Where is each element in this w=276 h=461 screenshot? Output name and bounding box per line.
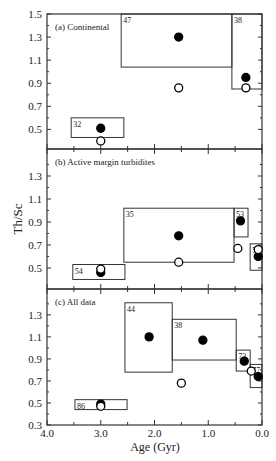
panel-b: 0.50.70.91.11.3(b) Active margin turbidi… xyxy=(28,149,262,294)
y-tick-label: 0.7 xyxy=(28,375,42,387)
filled-data-point xyxy=(254,373,262,381)
y-tick-label: 0.5 xyxy=(28,397,42,409)
y-tick-label: 1.1 xyxy=(28,193,42,205)
x-tick-label: 3.0 xyxy=(94,427,108,439)
filled-data-point xyxy=(240,357,248,365)
y-tick-label: 1.1 xyxy=(28,331,42,343)
chart-figure: 0.50.70.91.11.31.5(a) Continental3247380… xyxy=(0,0,276,461)
open-data-point xyxy=(177,379,185,387)
y-axis-label: Th/Sc xyxy=(10,203,25,234)
y-tick-label: 0.5 xyxy=(28,262,42,274)
filled-data-point xyxy=(242,73,250,81)
open-data-point xyxy=(175,84,183,92)
filled-data-point xyxy=(145,333,153,341)
box-label: 86 xyxy=(77,402,85,411)
x-tick-label: 4.0 xyxy=(40,427,54,439)
open-data-point xyxy=(175,258,183,266)
filled-data-point xyxy=(175,232,183,240)
x-axis-label: Age (Gyr) xyxy=(130,440,180,454)
y-tick-label: 0.9 xyxy=(28,216,42,228)
open-data-point xyxy=(97,265,105,273)
panel-c: 0.30.50.70.91.11.3(c) All data8644387377 xyxy=(28,289,262,431)
y-tick-label: 1.1 xyxy=(28,54,42,66)
x-tick-label: 1.0 xyxy=(201,427,215,439)
filled-data-point xyxy=(199,336,207,344)
panel-title: (c) All data xyxy=(55,297,95,307)
open-data-point xyxy=(97,402,105,410)
y-tick-label: 1.3 xyxy=(28,309,42,321)
y-tick-label: 1.5 xyxy=(28,8,42,20)
y-tick-label: 0.7 xyxy=(28,100,42,112)
y-tick-label: 1.3 xyxy=(28,170,42,182)
box-label: 44 xyxy=(127,305,135,314)
filled-data-point xyxy=(237,217,245,225)
open-data-point xyxy=(254,246,262,254)
open-data-point xyxy=(242,84,250,92)
y-tick-label: 1.3 xyxy=(28,31,42,43)
panel-title: (b) Active margin turbidites xyxy=(55,157,156,167)
box-label: 38 xyxy=(174,321,182,330)
open-data-point xyxy=(247,367,255,375)
open-data-point xyxy=(234,244,242,252)
y-tick-label: 0.5 xyxy=(28,123,42,135)
x-tick-label: 2.0 xyxy=(148,427,162,439)
box-label: 35 xyxy=(126,210,134,219)
y-tick-label: 0.9 xyxy=(28,353,42,365)
box-label: 38 xyxy=(234,16,242,25)
x-tick-labels: 4.03.02.01.00.0 xyxy=(40,427,269,439)
filled-data-point xyxy=(97,124,105,132)
y-tick-label: 0.9 xyxy=(28,77,42,89)
open-data-point xyxy=(97,137,105,145)
box-label: 47 xyxy=(123,16,131,25)
filled-data-point xyxy=(175,33,183,41)
panel-title: (a) Continental xyxy=(55,22,110,32)
box-label: 32 xyxy=(73,120,81,129)
y-tick-label: 0.7 xyxy=(28,239,42,251)
x-tick-label: 0.0 xyxy=(255,427,269,439)
box-label: 54 xyxy=(75,267,83,276)
panel-a: 0.50.70.91.11.31.5(a) Continental324738 xyxy=(28,8,262,154)
